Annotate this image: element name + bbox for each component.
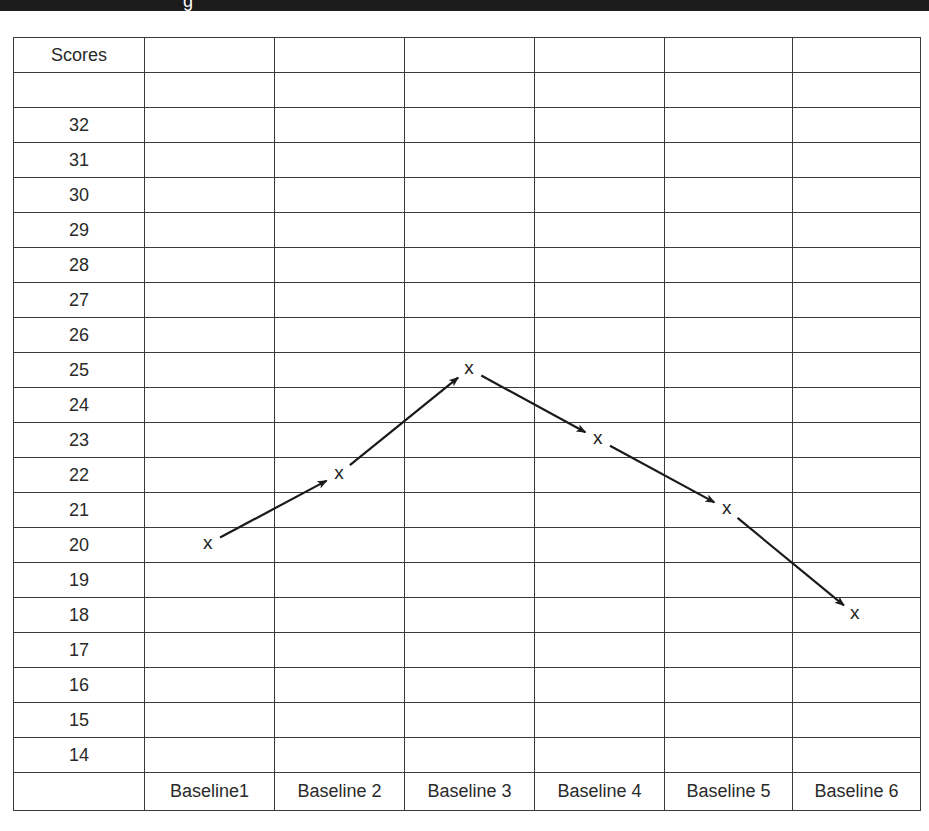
row-label: Scores — [14, 38, 145, 73]
grid-cell — [665, 353, 793, 388]
row-label: 30 — [14, 178, 145, 213]
grid-cell — [145, 38, 275, 73]
score-row: 31 — [14, 143, 921, 178]
grid-cell — [535, 703, 665, 738]
score-row: 21 — [14, 493, 921, 528]
grid-cell — [405, 248, 535, 283]
row-label: 22 — [14, 458, 145, 493]
grid-cell — [665, 248, 793, 283]
grid-cell — [665, 668, 793, 703]
grid-cell — [275, 248, 405, 283]
row-label — [14, 773, 145, 811]
grid-cell — [405, 703, 535, 738]
grid-cell — [145, 703, 275, 738]
grid-cell — [665, 598, 793, 633]
grid-cell — [665, 388, 793, 423]
grid-cell — [665, 213, 793, 248]
grid-cell — [145, 493, 275, 528]
data-point-marker: x — [464, 357, 474, 379]
grid-cell — [793, 388, 921, 423]
grid-cell — [793, 563, 921, 598]
grid-cell — [793, 108, 921, 143]
grid-cell — [405, 283, 535, 318]
grid-cell — [145, 388, 275, 423]
grid-cell — [405, 423, 535, 458]
grid-cell — [405, 633, 535, 668]
grid-cell — [665, 458, 793, 493]
row-label: 16 — [14, 668, 145, 703]
grid-cell — [535, 248, 665, 283]
grid-cell — [405, 73, 535, 108]
grid-cell — [535, 668, 665, 703]
grid-cell — [535, 528, 665, 563]
grid-cell — [145, 108, 275, 143]
score-row: 18 — [14, 598, 921, 633]
score-row: 28 — [14, 248, 921, 283]
grid-cell — [793, 178, 921, 213]
row-label: 17 — [14, 633, 145, 668]
baseline-label: Baseline 2 — [275, 773, 405, 811]
grid-cell — [665, 633, 793, 668]
grid-cell — [793, 703, 921, 738]
row-label: 15 — [14, 703, 145, 738]
top-banner: g — [0, 0, 929, 11]
grid-cell — [665, 38, 793, 73]
grid-cell — [535, 388, 665, 423]
grid-cell — [535, 633, 665, 668]
grid-cell — [405, 388, 535, 423]
grid-cell — [405, 143, 535, 178]
data-point-marker: x — [203, 532, 213, 554]
grid-cell — [405, 318, 535, 353]
row-label — [14, 73, 145, 108]
grid-cell — [145, 458, 275, 493]
score-row: 23 — [14, 423, 921, 458]
grid-cell — [145, 668, 275, 703]
grid-cell — [145, 213, 275, 248]
score-row: 30 — [14, 178, 921, 213]
grid-cell — [793, 353, 921, 388]
grid-cell — [145, 283, 275, 318]
grid-cell — [665, 703, 793, 738]
grid-cell — [405, 563, 535, 598]
score-row: 19 — [14, 563, 921, 598]
grid-cell — [145, 633, 275, 668]
grid-cell — [275, 38, 405, 73]
score-row: 27 — [14, 283, 921, 318]
grid-cell — [405, 668, 535, 703]
header-row: Scores — [14, 38, 921, 73]
grid-cell — [275, 703, 405, 738]
baseline-label: Baseline 5 — [665, 773, 793, 811]
row-label: 14 — [14, 738, 145, 773]
grid-cell — [793, 633, 921, 668]
score-row: 15 — [14, 703, 921, 738]
grid-cell — [535, 73, 665, 108]
grid-cell — [793, 493, 921, 528]
score-row: 16 — [14, 668, 921, 703]
grid-cell — [145, 178, 275, 213]
data-point-marker: x — [722, 497, 732, 519]
row-label: 20 — [14, 528, 145, 563]
grid-cell — [535, 143, 665, 178]
grid-cell — [793, 248, 921, 283]
grid-cell — [665, 73, 793, 108]
grid-cell — [405, 38, 535, 73]
row-label: 18 — [14, 598, 145, 633]
grid-cell — [275, 318, 405, 353]
grid-cell — [665, 563, 793, 598]
row-label: 19 — [14, 563, 145, 598]
grid-cell — [793, 528, 921, 563]
grid-cell — [535, 213, 665, 248]
grid-cell — [535, 493, 665, 528]
grid-cell — [665, 283, 793, 318]
grid-cell — [145, 738, 275, 773]
grid-cell — [665, 318, 793, 353]
row-label: 29 — [14, 213, 145, 248]
row-label: 27 — [14, 283, 145, 318]
row-label: 32 — [14, 108, 145, 143]
grid-cell — [793, 458, 921, 493]
grid-cell — [145, 423, 275, 458]
grid-cell — [145, 353, 275, 388]
grid-cell — [535, 318, 665, 353]
score-row: 17 — [14, 633, 921, 668]
grid-cell — [793, 73, 921, 108]
